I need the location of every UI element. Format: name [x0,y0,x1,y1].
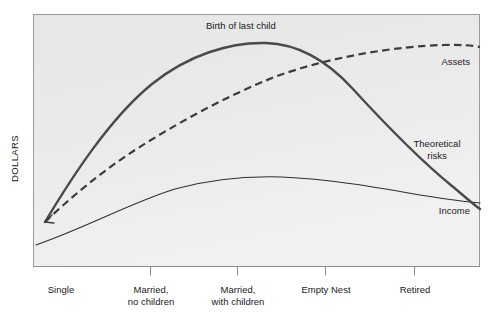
x-axis-label-single: Single [24,284,98,296]
series-label-theoretical-risks: Theoretical risks [396,138,478,161]
series-label-income: Income [392,205,470,217]
x-axis-label-married-no-children: Married, no children [109,284,193,307]
lifecycle-finance-chart: DOLLARS Birth of last child Assets Theor… [0,0,498,330]
x-axis-label-married-with-children: Married, with children [193,284,283,307]
y-axis-title-text: DOLLARS [10,134,21,181]
x-axis-label-retired: Retired [382,284,448,296]
y-axis-title: DOLLARS [2,104,28,212]
x-axis-label-empty-nest: Empty Nest [287,284,365,296]
annotation-birth-of-last-child: Birth of last child [206,20,276,32]
series-label-assets: Assets [392,56,470,68]
chart-canvas [0,0,498,330]
